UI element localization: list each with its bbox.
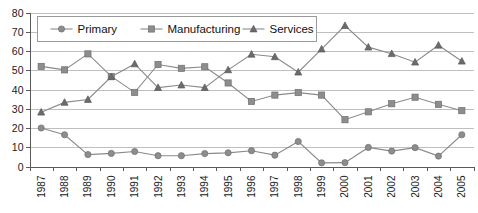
y-tick-label: 80 <box>12 7 24 19</box>
series-polyline <box>41 128 462 163</box>
data-point-marker <box>459 132 465 138</box>
data-point-marker <box>272 152 278 158</box>
x-tick-label: 1988 <box>59 175 70 198</box>
x-tick-label: 1995 <box>223 175 234 198</box>
x-tick-label: 1991 <box>129 175 140 198</box>
x-tick-label: 1997 <box>269 175 280 198</box>
data-point-marker <box>319 160 325 166</box>
chart-canvas: 01020304050607080 1987198819891990199119… <box>0 0 478 213</box>
data-point-marker <box>148 26 154 32</box>
series-manufacturing <box>38 51 465 123</box>
y-tick-label: 10 <box>12 141 24 153</box>
y-tick-label: 20 <box>12 122 24 134</box>
data-point-marker <box>412 145 418 151</box>
data-point-marker <box>58 26 64 32</box>
x-tick-label: 1987 <box>36 175 47 198</box>
data-point-marker <box>132 89 138 95</box>
x-tick-label: 1992 <box>153 175 164 198</box>
data-point-marker <box>295 138 301 144</box>
data-point-marker <box>132 148 138 154</box>
legend-label: Primary <box>78 23 118 35</box>
chart-legend: PrimaryManufacturingServices <box>38 17 317 42</box>
y-tick-label: 0 <box>18 161 24 173</box>
data-point-marker <box>435 153 441 159</box>
x-tick-label: 1993 <box>176 175 187 198</box>
data-point-marker <box>61 67 67 73</box>
data-point-marker <box>178 153 184 159</box>
data-point-marker <box>389 148 395 154</box>
data-point-marker <box>389 101 395 107</box>
x-tick-label: 1996 <box>246 175 257 198</box>
data-point-marker <box>38 63 44 69</box>
data-point-marker <box>272 92 278 98</box>
data-point-marker <box>248 98 254 104</box>
legend-label: Services <box>270 23 314 35</box>
data-point-marker <box>178 81 185 88</box>
data-point-marker <box>342 160 348 166</box>
data-point-marker <box>202 64 208 70</box>
data-point-marker <box>155 61 161 67</box>
data-point-marker <box>248 148 254 154</box>
data-point-marker <box>202 151 208 157</box>
data-point-marker <box>85 151 91 157</box>
y-tick-label: 50 <box>12 64 24 76</box>
x-tick-label: 1998 <box>293 175 304 198</box>
data-point-marker <box>459 108 465 114</box>
data-point-marker <box>225 150 231 156</box>
data-point-marker <box>435 42 442 49</box>
x-tick-label: 2002 <box>386 175 397 198</box>
legend-label: Manufacturing <box>168 23 241 35</box>
x-tick-label: 2005 <box>456 175 467 198</box>
data-point-marker <box>342 117 348 123</box>
x-tick-label: 2001 <box>363 175 374 198</box>
data-point-marker <box>85 51 91 57</box>
y-axis: 01020304050607080 <box>12 7 30 173</box>
y-tick-label: 60 <box>12 45 24 57</box>
data-point-marker <box>319 92 325 98</box>
x-tick-label: 1989 <box>82 175 93 198</box>
x-tick-label: 1999 <box>316 175 327 198</box>
x-tick-label: 1990 <box>106 175 117 198</box>
data-point-marker <box>365 109 371 115</box>
data-point-marker <box>295 89 301 95</box>
line-chart: 01020304050607080 1987198819891990199119… <box>0 0 478 213</box>
data-point-marker <box>38 125 44 131</box>
data-point-marker <box>131 60 138 67</box>
series-primary <box>38 125 465 166</box>
data-point-marker <box>341 22 348 29</box>
x-tick-label: 1994 <box>199 175 210 198</box>
data-point-marker <box>225 66 232 73</box>
x-tick-label: 2003 <box>410 175 421 198</box>
x-tick-label: 2004 <box>433 175 444 198</box>
y-tick-label: 40 <box>12 84 24 96</box>
data-point-marker <box>225 80 231 86</box>
data-point-marker <box>61 132 67 138</box>
series-lines <box>38 22 466 166</box>
data-point-marker <box>458 58 465 65</box>
y-tick-label: 70 <box>12 26 24 38</box>
x-axis <box>30 167 475 172</box>
data-point-marker <box>155 153 161 159</box>
data-point-marker <box>435 101 441 107</box>
x-tick-label: 2000 <box>339 175 350 198</box>
data-point-marker <box>178 65 184 71</box>
data-point-marker <box>108 150 114 156</box>
y-tick-label: 30 <box>12 103 24 115</box>
x-tick-labels: 1987198819891990199119921993199419951996… <box>36 175 468 198</box>
data-point-marker <box>365 144 371 150</box>
data-point-marker <box>412 94 418 100</box>
